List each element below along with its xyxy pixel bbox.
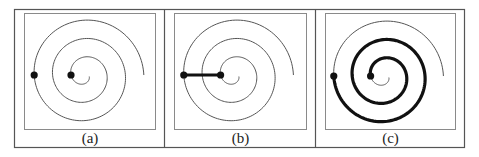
spiral-arc-segment (334, 39, 425, 121)
inner-point-dot (367, 72, 374, 79)
caption-b: (b) (232, 130, 250, 147)
panel-b: (b) (175, 14, 307, 148)
inner-point-dot (67, 71, 74, 78)
spiral-curve (34, 20, 144, 121)
spiral-curve (184, 20, 294, 121)
inner-box (25, 14, 156, 130)
outer-point-dot (31, 71, 38, 78)
caption-c: (c) (382, 130, 399, 147)
spiral-curve (334, 21, 444, 122)
inner-point-dot (217, 71, 224, 78)
spiral-figure: (a) (b) (c) (0, 0, 479, 157)
inner-box (326, 14, 456, 130)
inner-box (175, 14, 307, 130)
panel-c: (c) (326, 14, 456, 148)
outer-frame (15, 10, 465, 148)
outer-point-dot (180, 71, 187, 78)
outer-point-dot (330, 72, 337, 79)
panel-a: (a) (25, 14, 156, 148)
caption-a: (a) (82, 130, 99, 147)
